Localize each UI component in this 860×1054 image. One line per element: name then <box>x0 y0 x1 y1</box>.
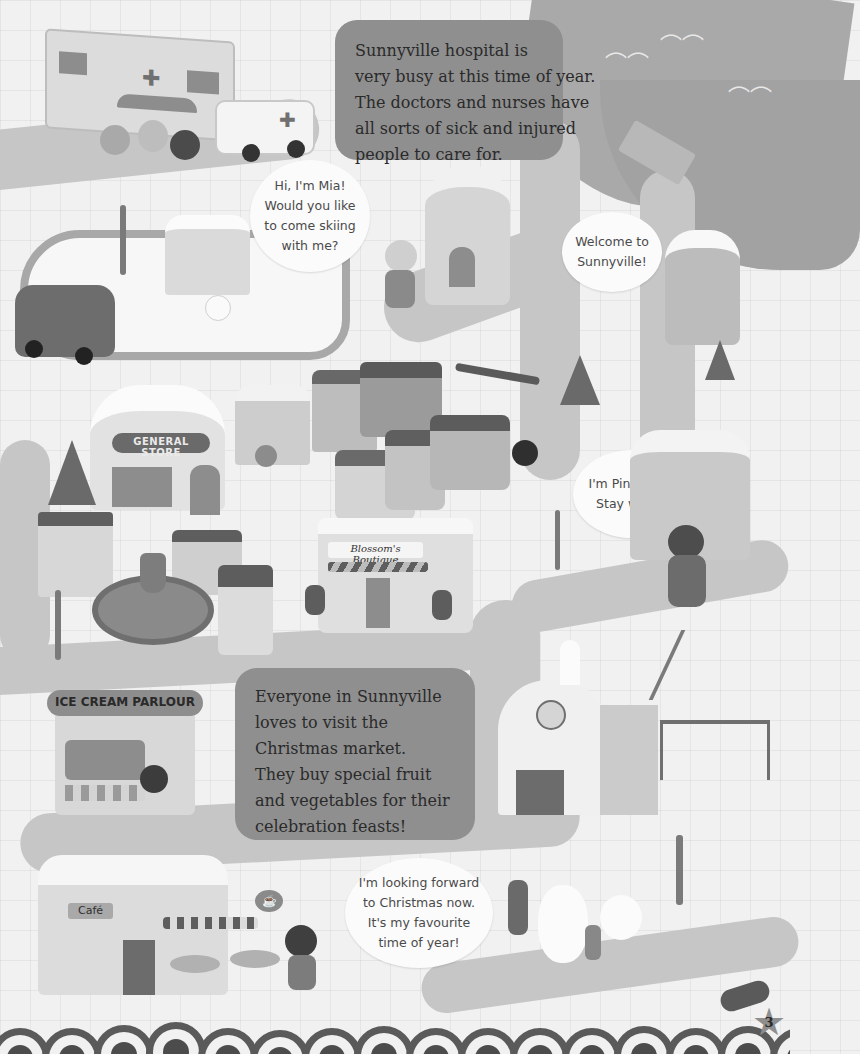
bell-tower <box>560 640 580 685</box>
bubble-line: Sunnyville! <box>575 252 649 272</box>
snowman <box>205 295 231 321</box>
mia-coat <box>385 270 415 308</box>
fruit-stall <box>38 512 113 597</box>
bubble-line: with me? <box>264 236 355 256</box>
pine-tree <box>48 440 96 505</box>
shop-door <box>190 465 220 515</box>
beaver-nurse <box>170 130 200 160</box>
general-store-sign-text: GENERAL STORE <box>112 436 210 458</box>
ice-cream-parlour: ICE CREAM PARLOUR <box>55 700 195 815</box>
wheel <box>25 340 43 358</box>
hospital-canopy <box>117 93 197 113</box>
welcome-speech-bubble: Welcome to Sunnyville! <box>562 212 662 292</box>
ambulance-cross-icon: ✚ <box>279 108 296 132</box>
mia-cat <box>385 240 417 272</box>
pinkerton-coat <box>668 555 706 607</box>
big-snowman <box>538 885 588 963</box>
pine-tree <box>560 355 600 405</box>
boutique-door <box>366 578 390 628</box>
market-stall <box>430 415 510 490</box>
checkered-panel <box>65 785 145 801</box>
market-narration-box: Everyone in Sunnyville loves to visit th… <box>235 668 475 840</box>
bubble-line: Would you like <box>264 196 355 216</box>
narration-line: loves to visit the <box>255 710 455 736</box>
lion-patient <box>138 120 168 152</box>
reindeer-character <box>508 880 528 935</box>
pinkerton-bear <box>668 525 704 559</box>
skunk-character <box>512 440 538 466</box>
wheel <box>287 140 305 158</box>
bubble-line: Welcome to <box>575 232 649 252</box>
topiary-plant <box>432 590 452 620</box>
decorative-border <box>0 1020 790 1054</box>
narration-line: all sorts of sick and injured <box>355 116 543 142</box>
bubble-line: time of year! <box>359 933 480 953</box>
cafe-building: Café <box>38 855 228 995</box>
dog-shopper <box>255 445 277 467</box>
narration-line: They buy special fruit <box>255 762 455 788</box>
narration-line: very busy at this time of year. <box>355 64 543 90</box>
pine-tree <box>705 340 735 380</box>
narration-line: and vegetables for their <box>255 788 455 814</box>
bare-tree <box>555 510 560 570</box>
beaver-speech-bubble: I'm looking forward to Christmas now. It… <box>345 858 493 968</box>
cafe-door <box>123 940 155 995</box>
cafe-table <box>170 955 220 973</box>
bubble-line: I'm looking forward <box>359 873 480 893</box>
cafe-table <box>230 950 280 968</box>
wheel <box>75 347 93 365</box>
small-hut <box>218 565 273 655</box>
bubble-line: Hi, I'm Mia! <box>264 176 355 196</box>
narration-line: celebration feasts! <box>255 814 455 840</box>
decorated-tree <box>676 835 683 905</box>
penguin-chef <box>140 765 168 793</box>
page-number: 3 <box>764 1015 773 1030</box>
small-snowman <box>600 895 642 940</box>
cup-sign-icon: ☕ <box>255 890 283 912</box>
door <box>449 247 475 287</box>
wave-icon: ︵︵ <box>728 64 772 96</box>
road <box>520 120 580 480</box>
wheel <box>242 144 260 162</box>
mouse-character <box>585 925 601 960</box>
car <box>15 285 115 357</box>
school-door <box>516 770 564 815</box>
topiary-plant <box>305 585 325 615</box>
barn <box>165 215 250 295</box>
narration-line: Sunnyville hospital is <box>355 38 543 64</box>
beaver-jumper <box>288 955 316 990</box>
swing-set <box>660 720 770 780</box>
general-store: GENERAL STORE <box>90 385 225 510</box>
hospital-cross-icon: ✚ <box>142 65 160 92</box>
bubble-line: to come skiing <box>264 216 355 236</box>
parlour-sign-text: ICE CREAM PARLOUR <box>47 695 203 709</box>
tower-house <box>425 165 510 305</box>
clock-icon <box>536 700 566 730</box>
slide <box>649 630 737 700</box>
wave-icon: ︵︵ <box>605 30 649 62</box>
wave-icon: ︵︵ <box>660 12 704 44</box>
bubble-line: to Christmas now. <box>359 893 480 913</box>
bubble-line: It's my favourite <box>359 913 480 933</box>
cafe-awning <box>163 917 258 929</box>
beaver-character <box>285 925 317 957</box>
fountain <box>92 575 214 645</box>
round-house <box>665 230 740 345</box>
narration-line: The doctors and nurses have <box>355 90 543 116</box>
hospital-building: ✚ <box>45 28 235 141</box>
shop-window <box>112 467 172 507</box>
narration-line: Everyone in Sunnyville <box>255 684 455 710</box>
page-number-badge: ★ 3 <box>752 1005 786 1039</box>
cafe-sign-text: Café <box>68 904 113 917</box>
bare-tree <box>55 590 61 660</box>
mia-speech-bubble: Hi, I'm Mia! Would you like to come skii… <box>250 160 370 272</box>
elephant-doctor <box>100 125 130 155</box>
hospital-narration-box: Sunnyville hospital is very busy at this… <box>335 20 563 160</box>
ambulance: ✚ <box>215 100 315 155</box>
bare-tree <box>120 205 126 275</box>
striped-awning <box>328 562 428 572</box>
school-house <box>498 680 608 815</box>
narration-line: Christmas market. <box>255 736 455 762</box>
narration-line: people to care for. <box>355 142 543 168</box>
school-side <box>600 705 658 815</box>
